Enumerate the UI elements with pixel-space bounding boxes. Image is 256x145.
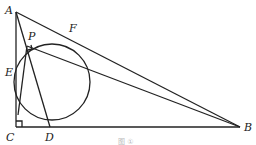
segment-pb [27,46,240,127]
label-a: A [4,4,13,17]
label-e: E [4,66,13,79]
label-c: C [6,131,15,144]
segment-ab [16,12,240,127]
right-angle-mark-c [16,121,22,127]
geometry-diagram: A F P E C D B 图 ① [0,0,256,145]
label-b: B [243,121,252,134]
label-f: F [68,22,77,35]
segment-ep [18,46,27,115]
figure-caption: 图 ① [118,138,134,145]
label-p: P [27,30,36,43]
label-d: D [44,131,54,144]
